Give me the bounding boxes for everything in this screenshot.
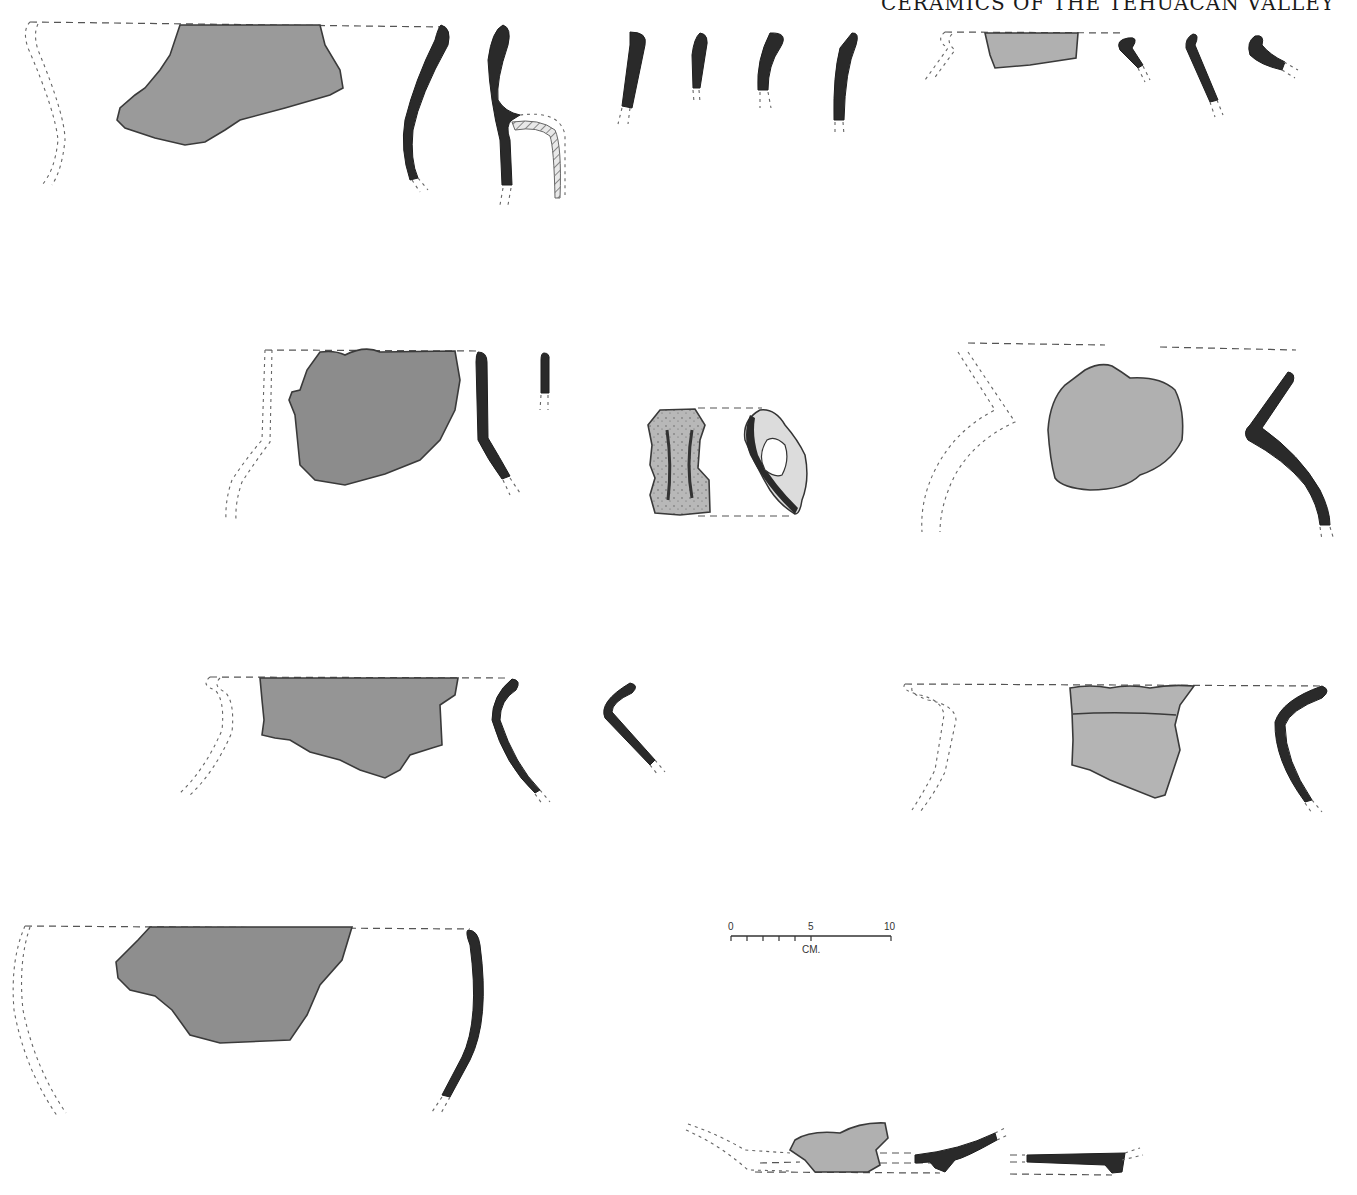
sherd-fragment xyxy=(289,349,460,485)
sherd-fragment xyxy=(260,678,458,778)
reconstruction-outer xyxy=(25,22,58,185)
rim-profile xyxy=(488,25,520,185)
base-profile-1 xyxy=(915,1133,997,1172)
continuation xyxy=(835,122,844,135)
scale-ticks xyxy=(731,936,891,941)
reconstruction-outer xyxy=(13,926,58,1117)
reconstruction-outer xyxy=(178,677,223,795)
figure-row1-small-profiles xyxy=(618,32,857,135)
reconstruction-inner xyxy=(36,24,66,185)
figure-row4-base xyxy=(686,1123,1143,1175)
lug-perforation xyxy=(761,438,786,475)
rim-profile-4 xyxy=(834,33,857,120)
rim-profile xyxy=(403,25,449,180)
sherd-fragment xyxy=(1048,365,1183,490)
rim-profile-everted-1 xyxy=(1119,38,1143,68)
scale-label-0: 0 xyxy=(728,921,734,932)
handle-section xyxy=(512,121,560,198)
figure-row4-bowl xyxy=(13,926,483,1117)
rim-profile xyxy=(476,352,510,479)
reconstruction-inner xyxy=(22,927,66,1113)
figure-row1-jar-small xyxy=(925,32,1298,117)
continuation xyxy=(618,108,630,124)
rim-profile-small xyxy=(541,353,549,393)
reconstruction-outer xyxy=(904,684,944,810)
reconstruction-outer xyxy=(688,1124,790,1153)
scale-label-5: 5 xyxy=(808,921,814,932)
figure-row3-jar-right xyxy=(904,684,1327,813)
lug-front-view xyxy=(648,409,710,515)
rim-profile xyxy=(442,930,483,1097)
scale-unit: CM. xyxy=(802,944,820,955)
profile-continuation xyxy=(500,188,511,205)
sherd-fragment xyxy=(790,1123,888,1172)
rim-profile-2 xyxy=(692,33,707,88)
rim-profile-2 xyxy=(604,683,655,765)
reconstruction-inner xyxy=(940,352,1015,532)
figure-row1-profile-a xyxy=(403,25,449,192)
rim-profile xyxy=(1275,686,1327,802)
rim-profile-3 xyxy=(758,33,784,90)
continuation xyxy=(693,90,700,102)
figure-row1-profile-handle xyxy=(488,25,565,205)
rim-line xyxy=(905,684,1325,686)
base-profile-2 xyxy=(1027,1153,1125,1173)
continuation xyxy=(1320,527,1334,540)
reconstruction-outer xyxy=(922,352,995,532)
sherd-fragment xyxy=(117,25,343,145)
scale-label-10: 10 xyxy=(884,921,896,932)
rim-profile-everted-3 xyxy=(1249,36,1285,70)
rim-profile xyxy=(492,679,540,793)
figure-row3-jar-left xyxy=(178,677,665,805)
reconstruction-inner xyxy=(236,350,272,520)
rim-profile-1 xyxy=(622,32,645,108)
reconstruction-inner xyxy=(686,1130,790,1171)
rim-profile-everted-2 xyxy=(1186,34,1218,102)
continuation xyxy=(432,1097,450,1115)
rim-profile xyxy=(1245,372,1330,525)
reconstruction-inner xyxy=(933,34,955,80)
continuation xyxy=(1305,800,1322,813)
profile-continuation xyxy=(412,178,428,192)
figure-row2-jar-angled xyxy=(922,343,1334,540)
sherd-fragment xyxy=(1070,685,1194,798)
rim-line-left xyxy=(968,343,1105,345)
continuation xyxy=(535,790,550,805)
reconstruction-inner xyxy=(188,678,233,797)
continuation xyxy=(540,395,548,410)
figure-row1-jar-large xyxy=(25,22,445,185)
reconstruction-outer xyxy=(925,32,948,80)
scale-bar: 0 5 10 CM. xyxy=(728,921,896,955)
sherd-fragment xyxy=(116,927,352,1043)
continuation xyxy=(1210,100,1223,117)
reconstruction-inner xyxy=(912,688,956,812)
ceramics-plate: 0 5 10 CM. xyxy=(0,0,1357,1195)
continuation xyxy=(760,92,771,108)
continuation xyxy=(503,478,520,495)
figure-row2-handle-lug xyxy=(648,408,807,516)
figure-row2-jar xyxy=(226,349,549,520)
sherd-fragment xyxy=(985,33,1078,68)
continuation xyxy=(1138,66,1150,82)
rim-line-right xyxy=(1160,347,1296,350)
reconstruction-outer xyxy=(226,350,265,520)
